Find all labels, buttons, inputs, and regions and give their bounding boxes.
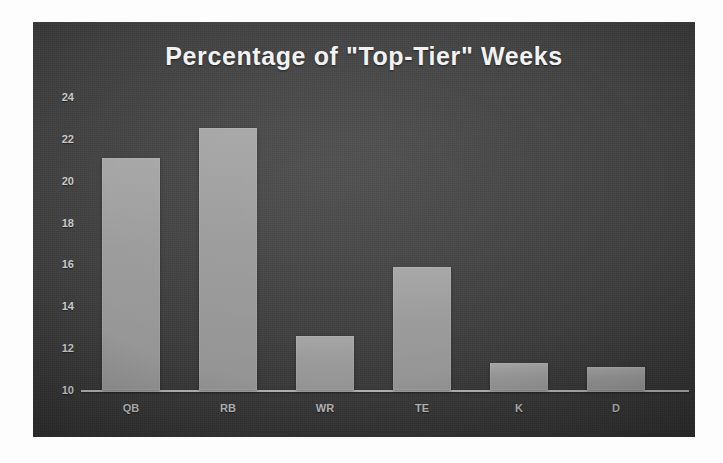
- y-axis-tick-label: 14: [40, 300, 74, 312]
- x-axis-label-rb: RB: [220, 402, 236, 414]
- x-axis-line: [81, 390, 689, 392]
- x-axis-label-wr: WR: [316, 402, 334, 414]
- bar-d: [587, 367, 645, 390]
- plot-area: 1012141618202224QBRBWRTEKD: [33, 22, 695, 437]
- x-axis-label-qb: QB: [123, 402, 140, 414]
- x-axis-label-d: D: [612, 402, 620, 414]
- y-axis-tick-label: 22: [40, 133, 74, 145]
- bar-qb: [102, 158, 160, 390]
- y-axis-tick-label: 16: [40, 258, 74, 270]
- y-axis-tick-label: 20: [40, 175, 74, 187]
- bar-wr: [296, 336, 354, 390]
- x-axis-label-te: TE: [415, 402, 429, 414]
- y-axis-tick-label: 10: [40, 384, 74, 396]
- page-canvas: Percentage of "Top-Tier" Weeks 101214161…: [0, 0, 723, 463]
- bar-k: [490, 363, 548, 390]
- bar-te: [393, 267, 451, 390]
- bar-rb: [199, 128, 257, 390]
- y-axis-tick-label: 12: [40, 342, 74, 354]
- y-axis-tick-label: 24: [40, 91, 74, 103]
- chart-panel: Percentage of "Top-Tier" Weeks 101214161…: [33, 22, 695, 437]
- x-axis-label-k: K: [515, 402, 523, 414]
- y-axis-tick-label: 18: [40, 217, 74, 229]
